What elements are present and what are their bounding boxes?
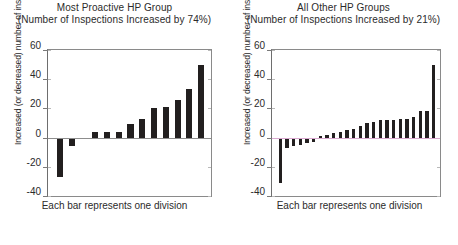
left-chart-title: Most Proactive HP Group: [0, 2, 229, 14]
inner-tick-right: [208, 196, 211, 197]
inner-tick-left: [272, 167, 275, 168]
inner-tick-left: [272, 50, 275, 51]
bar: [359, 126, 363, 138]
inner-tick-right: [208, 108, 211, 109]
right-y-axis-label: Increased (or decreased) number of inspe…: [242, 0, 252, 145]
right-chart-title: All Other HP Groups: [229, 2, 458, 14]
y-axis-tick-label: -40: [251, 191, 265, 192]
two-panel-bar-chart-figure: Most Proactive HP Group (Number of Inspe…: [0, 0, 458, 245]
left-chart-titles: Most Proactive HP Group (Number of Inspe…: [0, 2, 229, 26]
y-axis-tick-label: 20: [30, 103, 41, 104]
bar: [139, 119, 145, 138]
panel-most-proactive-hp-group: Most Proactive HP Group (Number of Inspe…: [0, 0, 229, 245]
bar: [425, 111, 429, 137]
left-bar-series: [48, 50, 211, 196]
inner-tick-right: [437, 79, 440, 80]
left-x-axis-caption: Each bar represents one division: [0, 200, 229, 211]
zero-baseline: [272, 138, 440, 140]
bar: [127, 124, 133, 137]
right-x-axis-caption: Each bar represents one division: [235, 200, 458, 211]
inner-tick-left: [48, 79, 51, 80]
bar: [175, 100, 181, 138]
inner-tick-left: [48, 50, 51, 51]
y-axis-tick-label: 0: [35, 133, 41, 134]
bar: [57, 138, 63, 177]
bar: [412, 117, 416, 137]
bar: [198, 65, 204, 138]
inner-tick-right: [437, 196, 440, 197]
left-y-axis-label: Increased (or decreased) number of inspe…: [13, 0, 23, 145]
bar: [399, 119, 403, 138]
inner-tick-right: [437, 50, 440, 51]
left-plot-area: -40-200204060: [47, 49, 212, 197]
inner-tick-left: [48, 196, 51, 197]
inner-tick-right: [208, 167, 211, 168]
inner-tick-left: [48, 167, 51, 168]
y-axis-tick-label: -20: [251, 162, 265, 163]
bar: [163, 107, 169, 138]
y-axis-tick-label: 40: [30, 74, 41, 75]
y-axis-tick-label: 60: [30, 45, 41, 46]
inner-tick-right: [208, 50, 211, 51]
y-axis-tick-label: -40: [27, 191, 41, 192]
left-chart-subtitle: (Number of Inspections Increased by 74%): [0, 14, 229, 26]
inner-tick-left: [272, 79, 275, 80]
inner-tick-left: [272, 108, 275, 109]
bar: [392, 120, 396, 138]
bar: [151, 108, 157, 137]
bar: [186, 89, 192, 137]
bar: [285, 138, 289, 148]
bar: [379, 120, 383, 138]
bar: [279, 138, 283, 183]
inner-tick-right: [208, 79, 211, 80]
y-axis-tick-label: 60: [254, 45, 265, 46]
right-bar-series: [272, 50, 440, 196]
y-axis-tick-label: 20: [254, 103, 265, 104]
bar: [432, 65, 436, 138]
right-plot-area: -40-200204060: [271, 49, 441, 197]
bar: [385, 120, 389, 138]
bar: [405, 119, 409, 138]
panel-all-other-hp-groups: All Other HP Groups (Number of Inspectio…: [229, 0, 458, 245]
right-chart-subtitle: (Number of Inspections Increased by 21%): [229, 14, 458, 26]
bar: [419, 111, 423, 137]
inner-tick-left: [48, 108, 51, 109]
inner-tick-right: [437, 167, 440, 168]
y-axis-tick-label: -20: [27, 162, 41, 163]
y-axis-tick-label: 0: [259, 133, 265, 134]
zero-baseline: [48, 138, 211, 139]
bar: [372, 122, 376, 138]
inner-tick-left: [272, 196, 275, 197]
inner-tick-right: [437, 108, 440, 109]
bar: [352, 129, 356, 138]
bar: [345, 130, 349, 137]
bar: [69, 138, 75, 147]
y-axis-tick-label: 40: [254, 74, 265, 75]
right-chart-titles: All Other HP Groups (Number of Inspectio…: [229, 2, 458, 26]
bar: [365, 123, 369, 138]
